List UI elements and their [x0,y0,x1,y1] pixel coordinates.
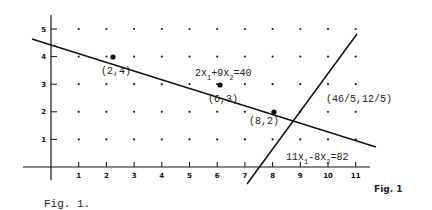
lattice-dot [78,138,80,140]
point-6-3 [217,82,222,87]
lattice-dot [161,138,163,140]
lattice-dot [244,83,246,85]
lattice-dot [161,111,163,113]
lattice-dot [133,56,135,58]
lattice-dot [161,56,163,58]
lattice-dot [133,111,135,113]
lattice-dot [105,28,107,30]
lattice-dot [188,56,190,58]
y-tick-label: 2 [41,108,46,116]
lattice-dot [216,111,218,113]
lattice-dot [327,138,329,140]
lattice-dot [133,138,135,140]
y-tick-label: 4 [41,53,46,61]
lattice-dot [216,56,218,58]
line-2-label: 11x1-8x2=82 [286,152,348,166]
x-tick-label: 9 [298,172,303,180]
figure-caption: Fig. 1. [44,198,90,210]
point-8-2 [271,109,276,114]
point-label-8-2: (8,2) [249,116,279,127]
lattice-dot [244,28,246,30]
lattice-dot [299,83,301,85]
lattice-dot [105,138,107,140]
x-tick-label: 10 [323,172,333,180]
lattice-dot [78,83,80,85]
lattice-dot [299,138,301,140]
x-tick-label: 4 [159,172,164,180]
figure-caption-right: Fig. 1 [374,184,403,194]
lattice-dot [188,111,190,113]
lattice-dot [327,111,329,113]
point-2-4 [110,54,115,59]
lattice-dot [327,28,329,30]
lattice-dot [244,111,246,113]
lattice-dot [133,28,135,30]
lattice-dot [327,56,329,58]
x-tick-label: 5 [187,172,192,180]
x-ticks: 1234567891011 [76,162,360,180]
x-tick-label: 2 [104,172,109,180]
x-tick-label: 3 [132,172,137,180]
lattice-dot [78,56,80,58]
x-tick-label: 6 [215,172,220,180]
point-label-2-4: (2,4) [101,66,131,77]
x-tick-label: 8 [270,172,275,180]
lattice-dot [272,138,274,140]
x-tick-label: 11 [351,172,361,180]
lattice-dot [299,28,301,30]
y-tick-label: 1 [41,136,46,144]
line-1-label: 2x1+9x2=40 [195,68,251,82]
lattice-dot [188,83,190,85]
lattice-dot [272,28,274,30]
lattice-dots [78,28,357,141]
lattice-dot [244,56,246,58]
lattice-dot [299,56,301,58]
point-label-6-3: (6,3) [208,94,238,105]
lattice-dot [244,138,246,140]
integer-programming-figure: 1234567891011 12345 (2,4) (6,3) (8,2) (4… [0,0,432,210]
lattice-dot [355,111,357,113]
x-tick-label: 1 [76,172,81,180]
lattice-dot [78,28,80,30]
lattice-dot [105,56,107,58]
constraint-line-1 [32,39,376,147]
x-tick-label: 7 [242,172,247,180]
lattice-dot [355,83,357,85]
lattice-dot [105,111,107,113]
y-tick-label: 5 [41,26,46,34]
point-label-intersection: (46/5,12/5) [326,94,392,105]
lattice-dot [355,28,357,30]
lattice-dot [161,28,163,30]
lattice-dot [355,56,357,58]
lattice-dot [272,83,274,85]
lattice-dot [105,83,107,85]
lattice-dot [133,83,135,85]
lattice-dot [188,138,190,140]
y-tick-label: 3 [41,81,46,89]
lattice-dot [327,83,329,85]
lattice-dot [216,138,218,140]
lattice-dot [272,56,274,58]
lattice-dot [188,28,190,30]
lattice-dot [78,111,80,113]
lattice-dot [216,28,218,30]
lattice-dot [161,83,163,85]
